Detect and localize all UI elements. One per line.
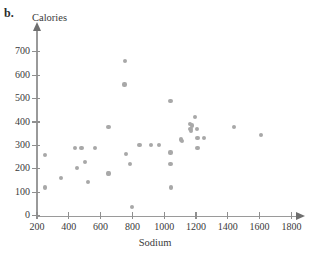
scatter-point <box>43 153 47 157</box>
y-tick-mark <box>32 98 40 99</box>
scatter-point <box>157 143 161 147</box>
scatter-point <box>124 152 128 156</box>
scatter-point <box>122 82 126 86</box>
scatter-point <box>86 180 90 184</box>
y-tick-mark <box>32 51 40 52</box>
y-tick-label: 300 <box>0 140 30 150</box>
y-tick-mark <box>32 75 40 76</box>
x-tick-mark <box>259 212 260 219</box>
scatter-point <box>193 115 197 119</box>
scatter-point <box>75 166 79 170</box>
scatter-point <box>137 143 141 147</box>
figure-scatterplot: b. Calories 0100200300400500600700 20040… <box>0 0 310 256</box>
y-tick-label: 400 <box>0 117 30 127</box>
y-axis-arrow-icon <box>33 22 41 31</box>
scatter-point <box>149 143 153 147</box>
scatter-point <box>169 185 173 189</box>
x-tick-mark <box>100 212 101 219</box>
scatter-point <box>83 160 87 164</box>
scatter-point <box>73 146 77 150</box>
scatter-point <box>195 136 199 140</box>
scatter-point <box>180 139 184 143</box>
y-axis-line <box>36 30 38 217</box>
scatter-point <box>79 146 83 150</box>
y-tick-label: 100 <box>0 187 30 197</box>
y-tick-mark <box>32 121 40 122</box>
scatter-point <box>190 123 194 127</box>
x-axis-title: Sodium <box>0 237 310 248</box>
y-tick-mark <box>32 168 40 169</box>
scatter-point <box>168 99 172 103</box>
scatter-point <box>168 150 172 154</box>
scatter-point <box>195 146 199 150</box>
x-tick-mark <box>164 212 165 219</box>
scatter-point <box>195 127 199 131</box>
x-tick-mark <box>195 212 196 219</box>
x-axis-arrow-icon <box>296 212 305 220</box>
x-tick-mark <box>291 212 292 219</box>
x-tick-mark <box>68 212 69 219</box>
plot-area: 0100200300400500600700 20040060080010001… <box>0 0 310 256</box>
scatter-point <box>168 162 172 166</box>
scatter-point <box>123 59 127 63</box>
scatter-point <box>107 171 111 175</box>
y-tick-label: 0 <box>0 210 30 220</box>
scatter-point <box>130 205 134 209</box>
scatter-point <box>59 176 63 180</box>
y-tick-mark <box>32 192 40 193</box>
y-tick-mark <box>32 145 40 146</box>
y-tick-label: 500 <box>0 93 30 103</box>
scatter-point <box>232 125 236 129</box>
scatter-point <box>106 125 110 129</box>
scatter-point <box>259 133 263 137</box>
y-tick-label: 700 <box>0 46 30 56</box>
y-tick-label: 600 <box>0 70 30 80</box>
y-tick-label: 200 <box>0 163 30 173</box>
scatter-point <box>202 136 206 140</box>
x-tick-mark <box>36 212 37 219</box>
scatter-point <box>189 129 193 133</box>
scatter-point <box>128 162 132 166</box>
scatter-point <box>93 146 97 150</box>
x-tick-mark <box>132 212 133 219</box>
x-tick-label: 1800 <box>271 221 310 232</box>
x-tick-mark <box>227 212 228 219</box>
scatter-point <box>43 185 47 189</box>
